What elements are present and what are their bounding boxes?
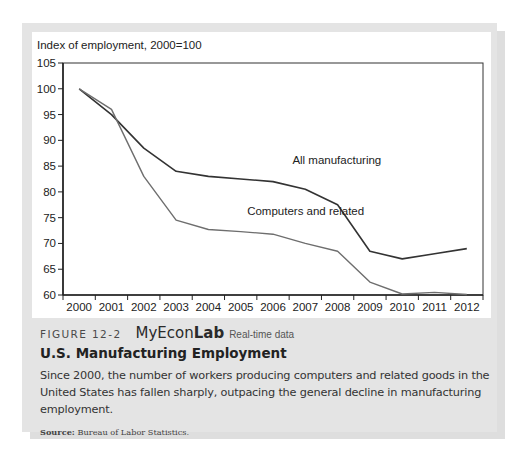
figure-header: FIGURE 12-2 MyEconLab Real-time data [40, 324, 490, 344]
figure-description: Since 2000, the number of workers produc… [40, 367, 490, 418]
figure-source: Source: Bureau of Labor Statistics. [40, 427, 490, 437]
x-tick-label: 2004 [196, 301, 222, 313]
y-tick-label: 100 [37, 83, 56, 95]
y-tick-label: 65 [43, 263, 56, 275]
x-tick-label: 2012 [454, 301, 480, 313]
series-line-computers-and-related [79, 89, 467, 295]
y-axis-title: Index of employment, 2000=100 [37, 39, 202, 51]
y-tick-label: 60 [43, 289, 56, 301]
y-tick-label: 85 [43, 160, 56, 172]
y-tick-label: 105 [37, 57, 56, 69]
x-tick-label: 2010 [389, 301, 415, 313]
line-chart: Index of employment, 2000=10060657075808… [0, 0, 530, 320]
plot-area [63, 63, 483, 295]
x-tick-label: 2007 [293, 301, 319, 313]
x-tick-label: 2011 [422, 301, 447, 313]
y-tick-label: 75 [43, 212, 56, 224]
figure-caption: FIGURE 12-2 MyEconLab Real-time data U.S… [40, 324, 490, 437]
x-tick-label: 2000 [66, 301, 92, 313]
label-computers-and-related: Computers and related [247, 205, 364, 217]
x-tick-label: 2008 [325, 301, 351, 313]
myeconlab-logo[interactable]: MyEconLab [135, 324, 224, 342]
x-tick-label: 2002 [131, 301, 157, 313]
y-tick-label: 90 [43, 134, 56, 146]
real-time-data-note: Real-time data [229, 329, 294, 340]
figure-title: U.S. Manufacturing Employment [40, 345, 490, 365]
x-tick-label: 2003 [163, 301, 189, 313]
x-tick-label: 2005 [228, 301, 254, 313]
y-tick-label: 95 [43, 109, 56, 121]
y-tick-label: 70 [43, 237, 56, 249]
figure-number: FIGURE 12-2 [40, 328, 121, 340]
series-line-all-manufacturing [79, 89, 467, 259]
x-tick-label: 2009 [357, 301, 383, 313]
y-tick-label: 80 [43, 186, 56, 198]
x-tick-label: 2006 [260, 301, 286, 313]
label-all-manufacturing: All manufacturing [292, 154, 381, 166]
x-tick-label: 2001 [99, 301, 125, 313]
